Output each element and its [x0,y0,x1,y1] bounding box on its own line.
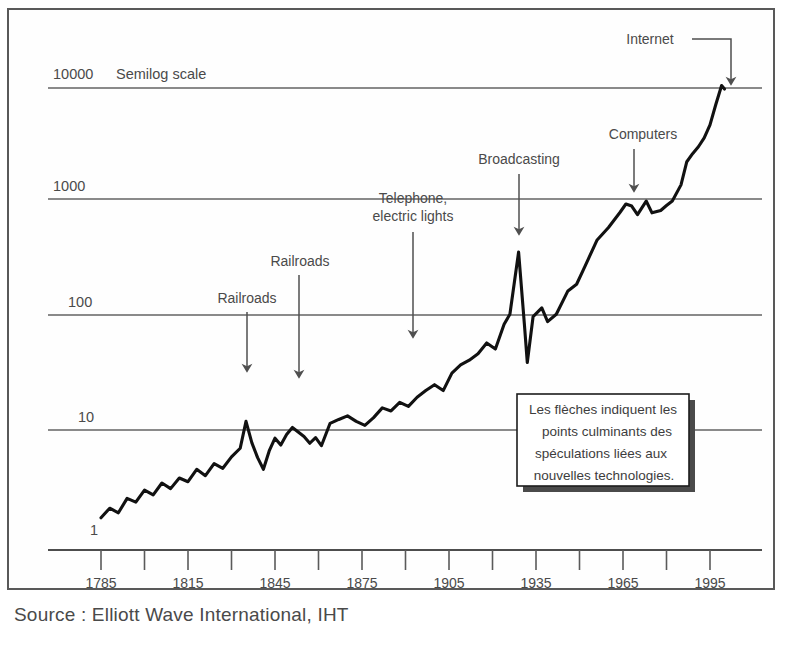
annotation-arrow-internet [692,39,731,81]
x-tick-label-1785: 1785 [85,575,116,591]
x-tick-label-1935: 1935 [520,575,551,591]
annotation-label-telephone-line1: Telephone, [379,190,448,206]
y-tick-label-1: 1 [90,522,98,538]
annotation-broadcasting: Broadcasting [478,151,560,231]
annotation-computers: Computers [609,126,677,188]
annotation-label-railroads-1: Railroads [217,290,276,306]
chart-canvas: 10000 1000 100 10 1 Semilog scale [0,0,786,653]
annotation-label-railroads-2: Railroads [270,253,329,269]
y-tick-label-10000: 10000 [53,66,93,82]
y-axis-labels: 10000 1000 100 10 1 [53,66,98,538]
annotation-label-internet: Internet [626,31,674,47]
callout-note: Les flèches indiquent les points culmina… [517,394,695,492]
callout-line-2: points culminants des [542,424,672,439]
semilog-scale-note: Semilog scale [116,66,206,82]
y-tick-label-10: 10 [78,409,94,425]
x-tick-label-1965: 1965 [607,575,638,591]
annotation-railroads-1: Railroads [217,290,276,368]
source-note: Source : Elliott Wave International, IHT [14,604,349,626]
x-axis-ticks [101,550,710,570]
annotation-internet: Internet [626,31,731,81]
annotation-label-telephone-line2: electric lights [373,208,454,224]
annotation-railroads-2: Railroads [270,253,329,374]
x-tick-label-1905: 1905 [433,575,464,591]
y-tick-label-100: 100 [68,294,92,310]
x-axis-labels: 1785 1815 1845 1875 1905 1935 1965 1995 [85,575,725,591]
annotation-label-broadcasting: Broadcasting [478,151,560,167]
annotation-label-computers: Computers [609,126,677,142]
figure-root: 10000 1000 100 10 1 Semilog scale [0,0,786,653]
x-tick-label-1815: 1815 [172,575,203,591]
x-tick-label-1845: 1845 [259,575,290,591]
x-tick-label-1875: 1875 [346,575,377,591]
callout-line-4: nouvelles technologies. [534,468,674,483]
callout-line-1: Les flèches indiquent les [529,402,677,417]
y-tick-label-1000: 1000 [53,178,85,194]
callout-line-3: spéculations liées aux [535,446,667,461]
x-tick-label-1995: 1995 [694,575,725,591]
annotation-telephone-electric-lights: Telephone, electric lights [373,190,454,334]
